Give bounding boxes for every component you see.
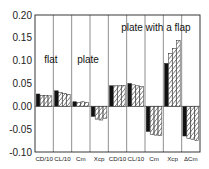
y-tick-label: 0.20 (13, 10, 33, 21)
chart-annotation: flat (44, 54, 58, 65)
bar (158, 106, 162, 135)
bar (36, 94, 40, 106)
bar (114, 86, 118, 107)
bar (195, 106, 199, 140)
y-tick-label: 0.00 (13, 101, 33, 112)
bar (91, 106, 95, 116)
y-axis-ticks: 0.200.150.100.050.00-0.05-0.10 (9, 10, 32, 158)
bar (154, 106, 158, 135)
bar (165, 63, 169, 106)
bar (110, 86, 114, 107)
y-tick-label: -0.05 (9, 124, 32, 135)
bar (48, 96, 52, 107)
bar (176, 41, 180, 107)
bar (169, 53, 173, 106)
x-tick-label: CL/10 (54, 155, 71, 162)
bar (81, 102, 85, 107)
bar (132, 85, 136, 106)
y-tick-label: 0.15 (13, 32, 33, 43)
bar (95, 106, 99, 119)
x-tick-label: Xcp (167, 155, 178, 162)
y-tick-label: 0.05 (13, 78, 33, 89)
y-tick-label: 0.10 (13, 55, 33, 66)
x-tick-label: Cm (149, 155, 159, 162)
bar (59, 93, 63, 107)
bar (136, 86, 140, 107)
bar (140, 87, 144, 107)
bar (103, 106, 107, 118)
bar (121, 85, 125, 106)
chart-annotation: plate (77, 54, 99, 65)
bar (146, 106, 150, 131)
bar (128, 84, 132, 107)
bar (118, 86, 122, 107)
bar (150, 106, 154, 134)
bar (183, 106, 187, 136)
x-tick-label: CD/10 (35, 155, 53, 162)
bar (44, 95, 48, 106)
x-tick-label: Cm (76, 155, 86, 162)
bar (66, 94, 70, 106)
bar (40, 95, 44, 106)
x-tick-label: CL/10 (128, 155, 145, 162)
bar (73, 102, 77, 107)
bar (99, 106, 103, 120)
bar (63, 94, 67, 107)
bar (85, 102, 89, 106)
bar (191, 106, 195, 139)
category-separators (53, 15, 181, 152)
bar (55, 91, 59, 107)
x-axis-ticks: CD/10CL/10CmXcpCD/10CL/10CmXcpΔCm (35, 155, 197, 162)
x-tick-label: Xcp (94, 155, 105, 162)
bar (77, 103, 81, 107)
x-tick-label: ΔCm (184, 155, 198, 162)
bar-chart: 0.200.150.100.050.00-0.05-0.10 CD/10CL/1… (0, 0, 209, 169)
bar (173, 48, 177, 106)
y-tick-label: -0.10 (9, 147, 32, 158)
x-tick-label: CD/10 (109, 155, 127, 162)
chart-annotation: plate with a flap (121, 22, 191, 33)
bar (187, 106, 191, 138)
bars (36, 41, 198, 141)
